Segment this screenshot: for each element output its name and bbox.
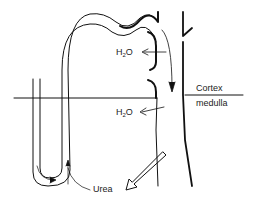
loop-outer-wall [33,12,158,186]
urea-leader-line [68,168,90,190]
duct-right-wall [183,12,192,186]
nephron-diagram: H2O H2O Cortex medulla Urea [0,0,253,206]
h2o-arrow-upper [142,49,166,55]
h2o-arrow-lower [140,107,164,115]
loop-inner-wall [40,24,156,178]
flow-arrowhead [169,82,175,92]
medulla-label: medulla [196,99,228,108]
thick-segment-middle [148,32,156,70]
duct-left-wall [156,98,158,186]
cortex-label: Cortex [196,84,223,93]
thick-segment-top [120,12,158,28]
open-diagonal-arrow [126,152,166,190]
h2o-label-lower: H2O [116,108,133,118]
flow-arrow [162,30,172,88]
urea-label: Urea [93,185,113,194]
thick-segment-junction [148,80,156,98]
h2o-label-upper: H2O [116,48,133,58]
